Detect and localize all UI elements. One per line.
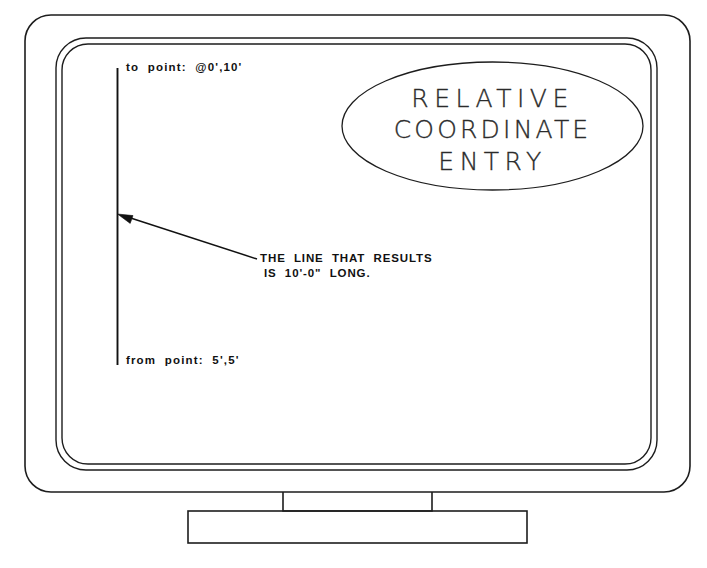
from-point-prompt: from point: 5',5' xyxy=(126,355,240,367)
monitor-stand-base xyxy=(188,511,527,543)
illustration-canvas: to point: @0',10' from point: 5',5' THE … xyxy=(0,0,707,568)
annotation-line-1: THE LINE THAT RESULTS xyxy=(260,253,433,265)
monitor-stand-neck xyxy=(283,492,432,511)
title-line-entry: ENTRY xyxy=(342,149,643,174)
title-line-relative: RELATIVE xyxy=(342,86,643,111)
to-point-prompt: to point: @0',10' xyxy=(126,62,242,74)
title-line-coordinate: COORDINATE xyxy=(342,117,643,142)
annotation-line-2: IS 10'-0" LONG. xyxy=(264,268,371,280)
